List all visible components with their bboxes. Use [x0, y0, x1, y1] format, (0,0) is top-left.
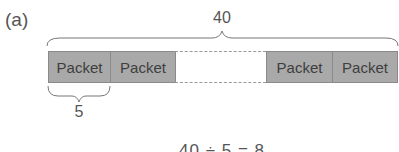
- unit-brace-icon: [48, 86, 110, 102]
- formula: 40 ÷ 5 = 8: [179, 141, 265, 152]
- packet-label: Packet: [277, 59, 323, 76]
- packet-2: Packet: [110, 51, 176, 83]
- packet-label: Packet: [57, 59, 103, 76]
- packet-label: Packet: [342, 59, 388, 76]
- packet-4: Packet: [332, 51, 398, 83]
- ellipsis-gap: [175, 51, 266, 83]
- packet-3: Packet: [266, 51, 333, 83]
- top-brace-icon: [47, 31, 398, 46]
- packet-label: Packet: [120, 59, 166, 76]
- packet-size-label: 5: [75, 103, 84, 121]
- packet-1: Packet: [48, 51, 111, 83]
